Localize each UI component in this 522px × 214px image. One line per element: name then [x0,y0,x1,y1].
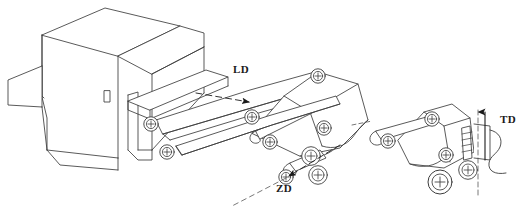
material-web-wavy-line [489,130,506,174]
drawing-svg [0,0,522,214]
label-ld: LD [233,63,249,75]
technical-drawing-canvas: LD ZD TD [0,0,522,214]
label-zd: ZD [276,182,292,194]
label-td: TD [500,113,516,125]
